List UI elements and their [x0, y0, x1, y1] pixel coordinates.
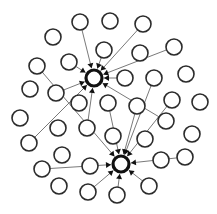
graph-node-n1: [72, 14, 88, 30]
edge-n31-hub2: [42, 165, 111, 169]
graph-node-n7: [166, 39, 182, 55]
arrowhead-icon: [129, 170, 135, 175]
network-diagram: [0, 0, 217, 214]
graph-node-n2: [102, 13, 118, 29]
graph-node-n4: [45, 29, 61, 45]
arrowhead-icon: [115, 149, 121, 155]
graph-node-n3: [135, 16, 151, 32]
graph-node-n29: [153, 152, 169, 168]
graph-node-n35: [109, 187, 125, 203]
arrowhead-icon: [89, 88, 95, 93]
arrowhead-icon: [80, 67, 86, 72]
graph-node-n12: [178, 66, 194, 82]
arrowhead-icon: [116, 174, 122, 179]
graph-node-n11: [146, 70, 162, 86]
graph-node-n17: [129, 98, 145, 114]
graph-node-n16: [100, 95, 116, 111]
graph-node-n27: [137, 131, 153, 147]
graph-node-n15: [71, 95, 87, 111]
graph-node-n13: [22, 81, 38, 97]
graph-node-n28: [54, 147, 70, 163]
graph-node-n36: [141, 178, 157, 194]
graph-node-n22: [79, 120, 95, 136]
graph-node-n33: [51, 178, 67, 194]
arrowhead-icon: [131, 159, 136, 165]
graph-node-n5: [96, 42, 112, 58]
graph-node-n32: [82, 158, 98, 174]
hub-node-hub2: [113, 156, 129, 172]
graph-node-n20: [12, 110, 28, 126]
arrowhead-icon: [127, 150, 132, 156]
graph-node-n6: [132, 45, 148, 61]
graph-node-n23: [158, 113, 174, 129]
graph-node-n25: [21, 135, 37, 151]
arrowhead-icon: [104, 75, 109, 81]
hub-node-hub1: [86, 70, 102, 86]
graph-node-n19: [192, 94, 208, 110]
graph-node-n14: [48, 85, 64, 101]
graph-node-n18: [164, 92, 180, 108]
graph-node-n24: [184, 126, 200, 142]
graph-node-n9: [61, 54, 77, 70]
graph-node-n26: [105, 128, 121, 144]
graph-node-n30: [177, 149, 193, 165]
graph-node-n10: [117, 70, 133, 86]
nodes-layer: [12, 13, 208, 203]
graph-node-n21: [50, 120, 66, 136]
graph-node-n31: [34, 161, 50, 177]
graph-node-n8: [29, 58, 45, 74]
arrowhead-icon: [106, 162, 111, 168]
graph-node-n34: [80, 184, 96, 200]
arrowhead-icon: [87, 63, 93, 69]
